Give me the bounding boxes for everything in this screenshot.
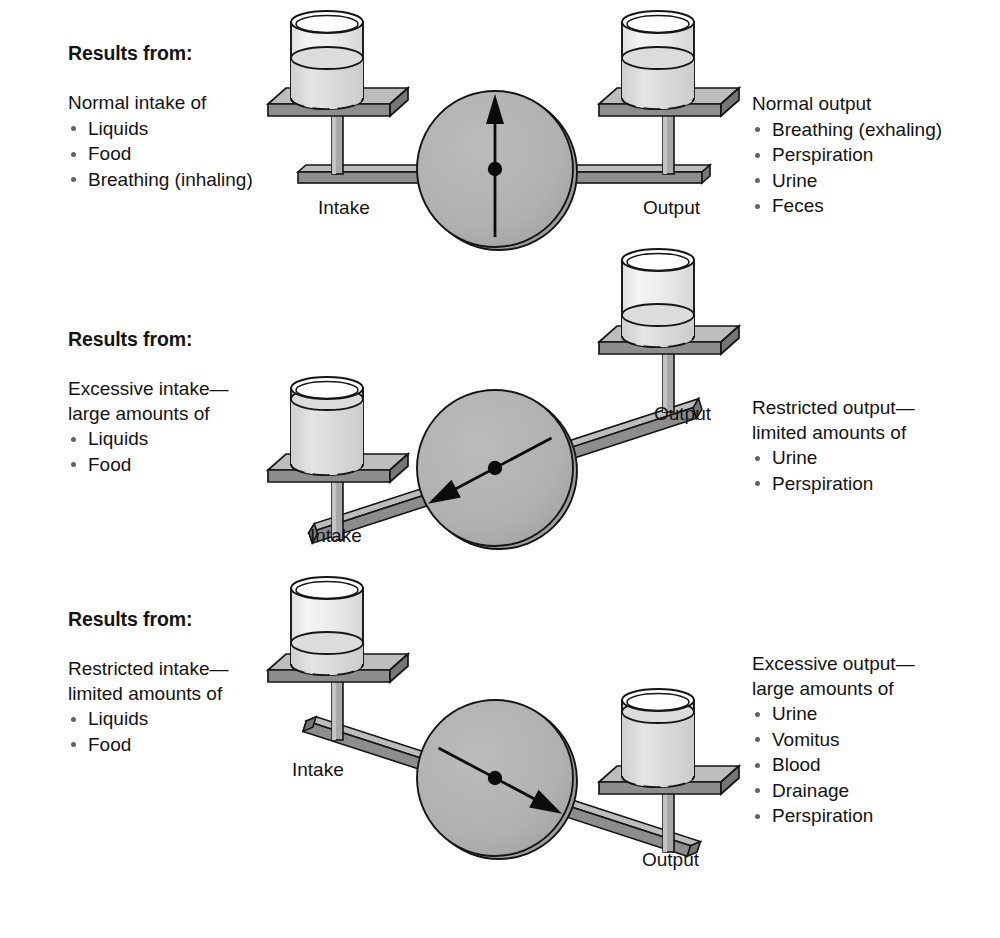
intake-label: Intake bbox=[310, 525, 362, 546]
intake-label: Intake bbox=[292, 759, 344, 780]
panel3-right-text-block: Excessive output— large amounts of Urine… bbox=[752, 652, 915, 829]
panel3-left-bullet-list: Liquids Food bbox=[68, 706, 229, 757]
output-label: Output bbox=[654, 403, 712, 424]
panel1-left-lead: Normal intake of bbox=[68, 91, 253, 116]
panel2-left-lead-line2: large amounts of bbox=[68, 402, 229, 427]
panel3-left-text-block: Results from: Restricted intake— limited… bbox=[68, 608, 229, 757]
list-item: Food bbox=[68, 732, 229, 758]
panel2-right-lead-line2: limited amounts of bbox=[752, 421, 915, 446]
output-label: Output bbox=[643, 197, 701, 218]
panel1-left-bullet-list: Liquids Food Breathing (inhaling) bbox=[68, 116, 253, 193]
panel3-balance-scale-graphic: Intake Output bbox=[250, 590, 770, 938]
list-item: Drainage bbox=[752, 778, 915, 804]
list-item: Liquids bbox=[68, 116, 253, 142]
list-item: Breathing (inhaling) bbox=[68, 167, 253, 193]
panel2-left-text-block: Results from: Excessive intake— large am… bbox=[68, 328, 229, 477]
panel2-right-bullet-list: Urine Perspiration bbox=[752, 445, 915, 496]
list-item: Breathing (exhaling) bbox=[752, 117, 942, 143]
panel2-right-lead-line1: Restricted output— bbox=[752, 396, 915, 421]
list-item: Perspiration bbox=[752, 142, 942, 168]
list-item: Feces bbox=[752, 193, 942, 219]
panel1-left-results-heading: Results from: bbox=[68, 42, 253, 65]
panel2-right-text-block: Restricted output— limited amounts of Ur… bbox=[752, 396, 915, 496]
panel-balanced: Results from: Normal intake of Liquids F… bbox=[0, 0, 1000, 300]
output-beaker bbox=[622, 249, 694, 347]
list-item: Food bbox=[68, 452, 229, 478]
panel2-balance-scale-graphic: Intake Output bbox=[250, 300, 770, 590]
output-beaker bbox=[622, 11, 694, 109]
list-item: Urine bbox=[752, 701, 915, 727]
list-item: Vomitus bbox=[752, 727, 915, 753]
panel3-right-lead-line2: large amounts of bbox=[752, 677, 915, 702]
panel1-right-text-block: Normal output Breathing (exhaling) Persp… bbox=[752, 92, 942, 219]
panel3-left-lead-line1: Restricted intake— bbox=[68, 657, 229, 682]
panel3-right-bullet-list: Urine Vomitus Blood Drainage Perspiratio… bbox=[752, 701, 915, 829]
panel-intake-exceeds-output: Results from: Excessive intake— large am… bbox=[0, 300, 1000, 590]
list-item: Food bbox=[68, 141, 253, 167]
list-item: Urine bbox=[752, 445, 915, 471]
intake-beaker bbox=[291, 577, 363, 675]
output-beaker bbox=[622, 689, 694, 787]
panel2-left-lead-line1: Excessive intake— bbox=[68, 377, 229, 402]
list-item: Urine bbox=[752, 168, 942, 194]
panel3-left-results-heading: Results from: bbox=[68, 608, 229, 631]
balance-scale-svg-tipped-output: Intake Output bbox=[250, 590, 770, 920]
panel3-left-lead-line2: limited amounts of bbox=[68, 682, 229, 707]
panel1-right-bullet-list: Breathing (exhaling) Perspiration Urine … bbox=[752, 117, 942, 219]
intake-assembly bbox=[268, 577, 408, 740]
list-item: Blood bbox=[752, 752, 915, 778]
panel1-right-lead: Normal output bbox=[752, 92, 942, 117]
panel2-left-bullet-list: Liquids Food bbox=[68, 426, 229, 477]
balance-scale-svg-balanced: Intake Output bbox=[250, 0, 770, 290]
list-item: Perspiration bbox=[752, 803, 915, 829]
list-item: Perspiration bbox=[752, 471, 915, 497]
dial-pivot-dot bbox=[488, 461, 502, 475]
panel1-balance-scale-graphic: Intake Output bbox=[250, 0, 770, 300]
intake-beaker bbox=[291, 11, 363, 109]
panel2-left-results-heading: Results from: bbox=[68, 328, 229, 351]
dial-pivot-dot bbox=[488, 771, 502, 785]
panel3-right-lead-line1: Excessive output— bbox=[752, 652, 915, 677]
intake-label: Intake bbox=[318, 197, 370, 218]
output-label: Output bbox=[642, 849, 700, 870]
list-item: Liquids bbox=[68, 426, 229, 452]
balance-scale-svg-tipped-intake: Intake Output bbox=[250, 300, 770, 590]
list-item: Liquids bbox=[68, 706, 229, 732]
panel1-left-text-block: Results from: Normal intake of Liquids F… bbox=[68, 42, 253, 192]
intake-beaker bbox=[291, 377, 363, 475]
panel-output-exceeds-intake: Results from: Restricted intake— limited… bbox=[0, 590, 1000, 938]
